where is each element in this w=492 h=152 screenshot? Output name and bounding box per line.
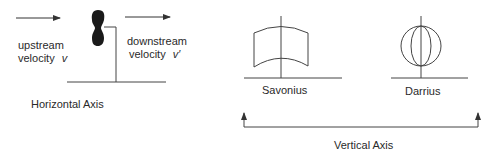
downstream-velocity-text: velocity bbox=[129, 48, 166, 60]
downstream-text: downstream bbox=[127, 35, 187, 47]
rotor-blade-icon bbox=[92, 10, 105, 46]
upstream-text: upstream bbox=[18, 39, 64, 51]
downstream-label: downstream bbox=[127, 35, 187, 47]
darrius-turbine bbox=[391, 16, 468, 78]
downstream-velocity-label: velocity v′ bbox=[129, 48, 180, 60]
upstream-velocity-text: velocity bbox=[18, 52, 55, 64]
upstream-velocity-symbol: v bbox=[62, 52, 68, 64]
vertical-axis-bracket bbox=[244, 113, 478, 127]
savonius-label: Savonius bbox=[262, 84, 307, 96]
vertical-axis-caption-text: Vertical Axis bbox=[334, 139, 393, 151]
savonius-label-text: Savonius bbox=[262, 84, 307, 96]
vertical-axis-caption: Vertical Axis bbox=[334, 139, 393, 151]
upstream-velocity-label: velocity v bbox=[18, 52, 67, 64]
wind-turbine-diagram bbox=[0, 0, 492, 152]
horizontal-axis-caption: Horizontal Axis bbox=[31, 98, 104, 110]
upstream-label: upstream bbox=[18, 39, 64, 51]
darrius-label: Darrius bbox=[405, 85, 440, 97]
darrius-label-text: Darrius bbox=[405, 85, 440, 97]
downstream-velocity-symbol: v′ bbox=[173, 48, 181, 60]
savonius-turbine bbox=[244, 16, 342, 78]
tower bbox=[104, 27, 116, 82]
horizontal-axis-caption-text: Horizontal Axis bbox=[31, 98, 104, 110]
